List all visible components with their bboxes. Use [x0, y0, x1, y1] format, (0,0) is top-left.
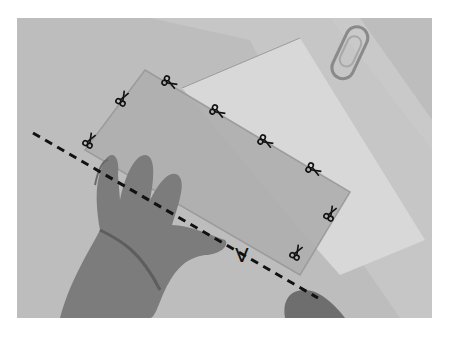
figure-caption-cropped	[17, 326, 432, 337]
instruction-photo: V	[17, 18, 432, 318]
fold-label-v: V	[235, 243, 249, 267]
